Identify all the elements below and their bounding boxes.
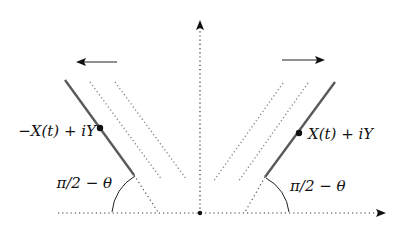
left-point-label: −X(t) + iY bbox=[18, 122, 98, 140]
left-ray-group: −X(t) + iY π/2 − θ bbox=[18, 62, 187, 212]
left-ray-extension bbox=[134, 175, 158, 212]
left-angle-arc bbox=[112, 176, 135, 212]
right-angle-label: π/2 − θ bbox=[289, 177, 346, 195]
left-angle-label: π/2 − θ bbox=[55, 174, 112, 192]
right-angle-arc bbox=[266, 178, 289, 212]
right-point-label: X(t) + iY bbox=[307, 125, 375, 143]
right-point-dot bbox=[296, 130, 302, 136]
right-ray-group: X(t) + iY π/2 − θ bbox=[213, 60, 375, 212]
right-ray-extension bbox=[245, 177, 265, 212]
diagram-canvas: −X(t) + iY π/2 − θ X(t) + iY π/2 − θ bbox=[0, 0, 408, 233]
left-point-dot bbox=[97, 125, 103, 131]
origin-dot bbox=[198, 211, 202, 215]
